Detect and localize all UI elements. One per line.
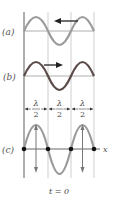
- half-wavelength-labels: λ 2 λ 2 λ 2: [25, 99, 93, 119]
- panel-b-label: (b): [3, 72, 16, 82]
- standing-wave-diagram: (a) (b) λ 2 λ 2: [0, 0, 116, 201]
- lambda-denominator: 2: [80, 110, 85, 119]
- node-dot: [92, 147, 97, 152]
- spacing-label-1: λ 2: [25, 99, 47, 119]
- node-dot: [22, 147, 27, 152]
- lambda-denominator: 2: [57, 110, 62, 119]
- lambda-numerator: λ: [79, 99, 85, 108]
- spacing-label-3: λ 2: [72, 99, 93, 119]
- panel-c-label: (c): [2, 145, 15, 155]
- lambda-numerator: λ: [32, 99, 38, 108]
- vertical-grid-lines: [24, 12, 94, 178]
- lambda-denominator: 2: [33, 110, 38, 119]
- spacing-label-2: λ 2: [49, 99, 70, 119]
- panel-c: (c) x: [2, 124, 108, 174]
- antinode-arrow-2: [81, 124, 85, 173]
- time-label: t = 0: [49, 187, 69, 196]
- x-axis-label: x: [103, 145, 108, 154]
- panel-a-label: (a): [2, 27, 15, 37]
- panel-c-standing-wave: [24, 125, 94, 174]
- node-dot: [69, 147, 74, 152]
- right-arrow-icon: [44, 62, 63, 68]
- lambda-numerator: λ: [56, 99, 62, 108]
- antinode-arrow-1: [34, 124, 38, 173]
- node-dot: [46, 147, 51, 152]
